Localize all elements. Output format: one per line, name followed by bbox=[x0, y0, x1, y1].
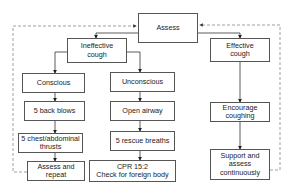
node-assess-repeat-label: Assess and repeat bbox=[30, 163, 82, 180]
node-chest-thrusts-label: 5 chest/abdominal thrusts bbox=[21, 135, 79, 152]
node-open-airway: Open airway bbox=[110, 101, 175, 121]
node-conscious: Conscious bbox=[22, 73, 85, 93]
node-effective-cough-label: Effective cough bbox=[226, 42, 253, 59]
node-effective-cough: Effective cough bbox=[210, 38, 270, 62]
node-chest-thrusts: 5 chest/abdominal thrusts bbox=[18, 133, 83, 153]
node-unconscious: Unconscious bbox=[110, 72, 175, 92]
node-ineffective-cough: Ineffective cough bbox=[67, 38, 127, 63]
node-cpr-label: CPR 15:2 Check for foreign body bbox=[96, 163, 168, 180]
node-assess: Assess bbox=[138, 13, 198, 43]
node-ineffective-cough-label: Ineffective cough bbox=[81, 42, 114, 59]
node-open-airway-label: Open airway bbox=[122, 107, 162, 116]
node-assess-label: Assess bbox=[156, 24, 179, 33]
node-rescue-breaths-label: 5 rescue breaths bbox=[116, 137, 170, 146]
node-assess-repeat: Assess and repeat bbox=[27, 161, 85, 181]
node-back-blows-label: 5 back blows bbox=[34, 107, 76, 116]
node-support-assess-label: Support and assess continuously bbox=[220, 152, 260, 178]
node-back-blows: 5 back blows bbox=[24, 101, 85, 121]
node-support-assess: Support and assess continuously bbox=[210, 149, 270, 180]
node-encourage-coughing-label: Encourage coughing bbox=[223, 104, 258, 121]
node-rescue-breaths: 5 rescue breaths bbox=[110, 131, 175, 151]
node-unconscious-label: Unconscious bbox=[122, 78, 163, 87]
node-conscious-label: Conscious bbox=[37, 79, 71, 88]
node-encourage-coughing: Encourage coughing bbox=[210, 102, 270, 122]
choking-flowchart: Assess Ineffective cough Effective cough… bbox=[0, 0, 290, 193]
node-cpr: CPR 15:2 Check for foreign body bbox=[89, 160, 176, 182]
